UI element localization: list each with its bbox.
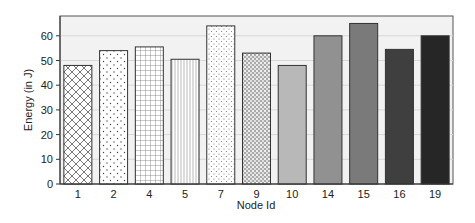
- y-tick-label: 0: [47, 178, 53, 190]
- bar-node-14: [314, 36, 342, 184]
- bar-node-4: [135, 47, 163, 184]
- x-tick-label: 5: [182, 188, 188, 200]
- x-tick-label: 7: [218, 188, 224, 200]
- x-tick-label: 15: [358, 188, 370, 200]
- x-axis-label: Node Id: [237, 199, 276, 211]
- x-tick-label: 4: [146, 188, 152, 200]
- x-tick-label: 19: [429, 188, 441, 200]
- y-axis-ticks: 0102030405060: [41, 30, 60, 190]
- bar-node-9: [243, 53, 271, 184]
- x-tick-label: 10: [286, 188, 298, 200]
- bar-node-7: [207, 26, 235, 184]
- y-tick-label: 10: [41, 153, 53, 165]
- bar-chart: 0102030405060 1245791014151619 Node Id E…: [0, 0, 475, 223]
- y-tick-label: 20: [41, 129, 53, 141]
- y-tick-label: 40: [41, 79, 53, 91]
- y-tick-label: 30: [41, 104, 53, 116]
- x-tick-label: 14: [322, 188, 334, 200]
- x-tick-label: 1: [75, 188, 81, 200]
- x-tick-label: 2: [111, 188, 117, 200]
- x-tick-label: 16: [393, 188, 405, 200]
- bar-node-10: [278, 65, 306, 184]
- y-tick-label: 60: [41, 30, 53, 42]
- bar-node-15: [350, 23, 378, 184]
- bar-node-2: [100, 51, 128, 184]
- bar-node-16: [385, 49, 413, 184]
- y-tick-label: 50: [41, 55, 53, 67]
- bar-node-1: [64, 65, 92, 184]
- bar-node-19: [421, 36, 449, 184]
- y-axis-label: Energy (in J): [22, 69, 34, 131]
- bar-node-5: [171, 59, 199, 184]
